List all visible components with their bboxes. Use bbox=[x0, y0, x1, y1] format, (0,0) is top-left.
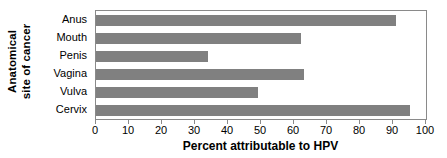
plot-area bbox=[95, 10, 427, 120]
y-axis-title-line-2: site of cancer bbox=[20, 23, 34, 99]
x-axis-tick-label: 10 bbox=[122, 124, 134, 137]
y-axis-tick-label: Vagina bbox=[40, 64, 91, 82]
bar-row bbox=[96, 101, 426, 119]
bar-cervix bbox=[96, 105, 410, 116]
bar-penis bbox=[96, 51, 208, 62]
x-axis-tick-label: 70 bbox=[320, 124, 332, 137]
bar-series bbox=[96, 11, 426, 119]
bar-chart: Anatomical site of cancer Anus Mouth Pen… bbox=[0, 0, 447, 158]
x-axis-tick-label: 50 bbox=[254, 124, 266, 137]
x-axis-tick-label: 60 bbox=[287, 124, 299, 137]
bar-row bbox=[96, 47, 426, 65]
bar-vulva bbox=[96, 87, 258, 98]
y-axis-tick-label: Anus bbox=[40, 10, 91, 28]
bar-row bbox=[96, 65, 426, 83]
x-axis-tick-label: 40 bbox=[221, 124, 233, 137]
x-axis-tick-label: 20 bbox=[155, 124, 167, 137]
y-axis-tick-label: Mouth bbox=[40, 28, 91, 46]
x-axis-tick-labels: 0102030405060708090100 bbox=[95, 124, 426, 138]
y-axis-title-line-1: Anatomical bbox=[7, 23, 21, 99]
y-axis-tick-label: Vulva bbox=[40, 82, 91, 100]
x-axis-tick-label: 100 bbox=[416, 124, 434, 137]
bar-row bbox=[96, 11, 426, 29]
y-axis-tick-label: Cervix bbox=[40, 100, 91, 118]
bar-anus bbox=[96, 15, 396, 26]
y-axis-tick-label: Penis bbox=[40, 46, 91, 64]
bar-row bbox=[96, 83, 426, 101]
bar-vagina bbox=[96, 69, 304, 80]
x-axis-title: Percent attributable to HPV bbox=[95, 139, 426, 153]
y-axis-title: Anatomical site of cancer bbox=[0, 0, 40, 122]
x-axis-tick-label: 0 bbox=[92, 124, 98, 137]
bar-row bbox=[96, 29, 426, 47]
y-axis-tick-labels: Anus Mouth Penis Vagina Vulva Cervix bbox=[40, 10, 91, 118]
x-axis-tick-label: 30 bbox=[188, 124, 200, 137]
bar-mouth bbox=[96, 33, 301, 44]
x-axis-tick-label: 90 bbox=[386, 124, 398, 137]
x-axis-tick-label: 80 bbox=[353, 124, 365, 137]
